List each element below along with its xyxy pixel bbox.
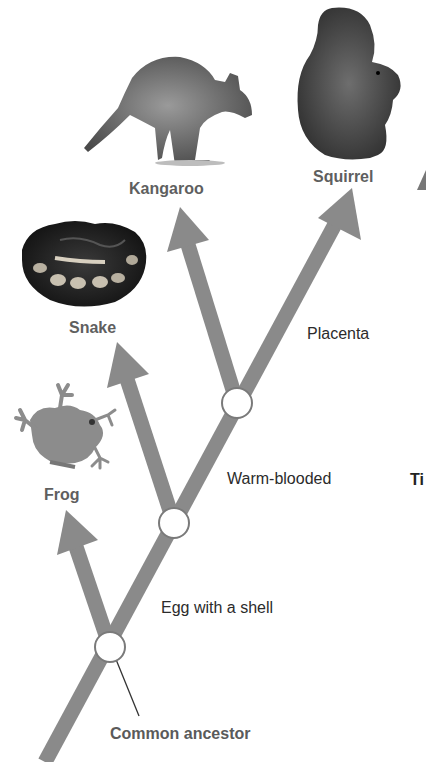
node-warm-blooded (222, 388, 252, 418)
cut-off-text: Ti (410, 471, 424, 489)
trait-label-egg-with-shell: Egg with a shell (161, 599, 273, 617)
branch-kangaroo (167, 207, 237, 403)
squirrel-image (298, 8, 401, 160)
trait-label-warm-blooded: Warm-blooded (227, 470, 331, 488)
node-egg-shell (159, 508, 189, 538)
ancestor-pointer-line (113, 652, 139, 716)
partial-arrowhead (417, 170, 426, 190)
branch-snake (107, 342, 174, 523)
taxon-label-snake: Snake (69, 319, 116, 337)
taxon-label-kangaroo: Kangaroo (129, 180, 204, 198)
arrowhead-kangaroo (167, 207, 209, 252)
cladogram-tree (0, 0, 426, 762)
snake-image (22, 221, 146, 307)
frog-image (16, 385, 115, 468)
kangaroo-image (84, 57, 252, 166)
branch-frog (57, 510, 110, 647)
node-common-ancestor (95, 632, 125, 662)
trait-label-placenta: Placenta (307, 325, 369, 343)
taxon-label-squirrel: Squirrel (313, 168, 373, 186)
root-label-common-ancestor: Common ancestor (110, 725, 250, 743)
taxon-label-frog: Frog (44, 486, 80, 504)
